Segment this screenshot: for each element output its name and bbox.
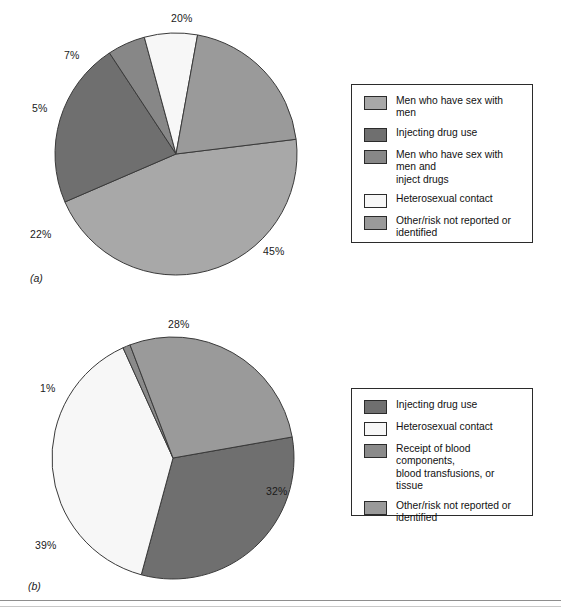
pie-slice[interactable]: Other/risk not reported or identified 20… [176, 35, 296, 154]
legend-item-label: Receipt of blood components,blood transf… [396, 443, 524, 493]
legend-item-label: Other/risk not reported oridentified [396, 215, 511, 240]
pie-percent-label: 45% [263, 245, 284, 257]
legend-item[interactable]: Heterosexual contact [364, 421, 524, 436]
legend-item[interactable]: Men who have sex with men [364, 95, 524, 120]
legend-item[interactable]: Men who have sex with men andinject drug… [364, 149, 524, 186]
legend-a: Men who have sex with menInjecting drug … [351, 84, 533, 243]
legend-swatch [364, 444, 387, 458]
legend-swatch [364, 400, 387, 414]
legend-item[interactable]: Receipt of blood components,blood transf… [364, 443, 524, 493]
figure-canvas: Men who have sex with men 45%Injecting d… [0, 0, 561, 612]
legend-item[interactable]: Injecting drug use [364, 127, 524, 142]
pie-chart-a: Men who have sex with men 45%Injecting d… [52, 30, 300, 278]
legend-item[interactable]: Heterosexual contact [364, 193, 524, 208]
legend-item-label: Men who have sex with men andinject drug… [396, 149, 524, 186]
legend-swatch [364, 194, 387, 208]
pie-percent-label: 7% [64, 49, 79, 61]
pie-a-svg: Men who have sex with men 45%Injecting d… [52, 30, 300, 278]
bottom-divider-rule [0, 600, 561, 601]
legend-item[interactable]: Other/risk not reported oridentified [364, 500, 524, 525]
legend-swatch [364, 501, 387, 515]
pie-percent-label: 1% [40, 382, 55, 394]
pie-percent-label: 32% [266, 485, 287, 497]
legend-item-label: Heterosexual contact [396, 421, 493, 433]
legend-swatch [364, 150, 387, 164]
pie-percent-label: 20% [171, 12, 192, 24]
legend-swatch [364, 96, 387, 110]
pie-percent-label: 22% [30, 228, 51, 240]
panel-a-letter: (a) [30, 272, 43, 284]
pie-percent-label: 28% [168, 318, 189, 330]
legend-item-label: Men who have sex with men [396, 95, 524, 120]
legend-item-label: Other/risk not reported oridentified [396, 500, 511, 525]
legend-swatch [364, 128, 387, 142]
legend-item-label: Heterosexual contact [396, 193, 493, 205]
pie-b-svg: Injecting drug use 32%Heterosexual conta… [49, 334, 297, 582]
panel-b-letter: (b) [28, 580, 41, 592]
legend-b: Injecting drug useHeterosexual contactRe… [351, 388, 533, 516]
bottom-divider-rule-secondary [0, 606, 561, 607]
legend-item-label: Injecting drug use [396, 127, 477, 139]
legend-item[interactable]: Injecting drug use [364, 399, 524, 414]
legend-item-label: Injecting drug use [396, 399, 477, 411]
pie-percent-label: 39% [35, 539, 56, 551]
legend-swatch [364, 216, 387, 230]
legend-swatch [364, 422, 387, 436]
legend-item[interactable]: Other/risk not reported oridentified [364, 215, 524, 240]
pie-percent-label: 5% [32, 102, 47, 114]
pie-chart-b: Injecting drug use 32%Heterosexual conta… [49, 334, 297, 582]
